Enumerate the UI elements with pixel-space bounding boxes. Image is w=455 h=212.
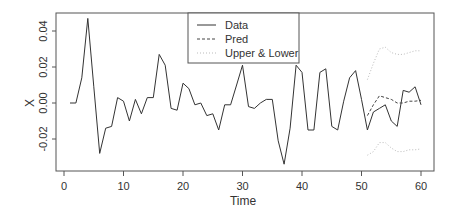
x-axis-ticks: 0102030405060 (61, 171, 427, 192)
x-tick-label: 50 (355, 180, 367, 192)
legend-pred-label: Pred (225, 33, 248, 45)
y-tick-label: 0.02 (37, 56, 49, 77)
x-tick-label: 30 (236, 180, 248, 192)
legend: Data Pred Upper & Lower (188, 13, 299, 63)
x-tick-label: 0 (61, 180, 67, 192)
y-axis-ticks: -0.020.000.020.04 (37, 20, 56, 151)
y-axis-label: X (23, 99, 37, 107)
legend-bounds-label: Upper & Lower (225, 47, 299, 59)
x-tick-label: 40 (296, 180, 308, 192)
x-tick-label: 60 (415, 180, 427, 192)
y-tick-label: -0.02 (37, 126, 49, 151)
x-tick-label: 10 (117, 180, 129, 192)
pred-line (367, 96, 421, 116)
lower-bound-line (367, 143, 421, 156)
x-axis-label: Time (230, 194, 257, 208)
time-series-chart: X -0.020.000.020.04 0102030405060 Time D… (0, 0, 455, 212)
y-tick-label: 0.00 (37, 92, 49, 113)
x-tick-label: 20 (177, 180, 189, 192)
legend-data-label: Data (225, 19, 249, 31)
upper-bound-line (367, 47, 421, 79)
y-tick-label: 0.04 (37, 20, 49, 41)
